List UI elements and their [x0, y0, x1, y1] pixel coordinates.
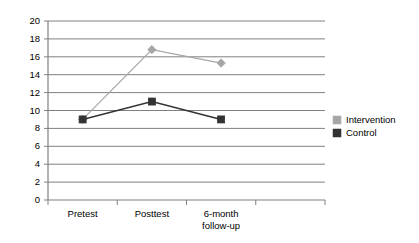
- y-axis-tick-label: 10: [29, 105, 40, 116]
- x-axis-tick-label: Pretest: [68, 208, 98, 219]
- chart-canvas: 02468101214161820 PretestPosttest6-month…: [0, 0, 419, 243]
- y-axis-tick-label: 8: [35, 122, 40, 133]
- data-point-marker: [79, 116, 86, 123]
- legend-label: Control: [346, 127, 377, 138]
- y-axis-tick-label: 0: [35, 194, 40, 205]
- y-axis-tick-label: 6: [35, 140, 40, 151]
- y-axis-tick-label: 16: [29, 51, 40, 62]
- legend-swatch: [333, 129, 341, 137]
- line-chart: 02468101214161820 PretestPosttest6-month…: [0, 0, 419, 243]
- y-axis-tick-label: 18: [29, 33, 40, 44]
- y-axis-tick-label: 20: [29, 15, 40, 26]
- y-axis-tick-label: 12: [29, 87, 40, 98]
- legend-swatch: [333, 116, 341, 124]
- y-axis-tick-label: 2: [35, 176, 40, 187]
- data-point-marker: [218, 116, 225, 123]
- x-axis-tick-label: 6-month: [204, 208, 239, 219]
- legend-label: Intervention: [346, 114, 396, 125]
- x-axis-tick-label: follow-up: [202, 220, 240, 231]
- y-axis-tick-label: 14: [29, 69, 40, 80]
- data-point-marker: [148, 98, 155, 105]
- y-axis-tick-label: 4: [35, 158, 40, 169]
- x-axis-tick-label: Posttest: [135, 208, 170, 219]
